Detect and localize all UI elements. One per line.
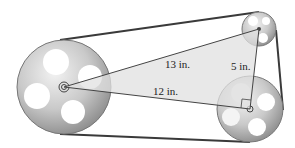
pulley-hole: [257, 93, 275, 111]
pulley-hole: [258, 33, 268, 43]
long-leg-label: 12 in.: [153, 85, 178, 97]
pulley-hole: [43, 49, 69, 75]
pulley-hole: [248, 118, 266, 136]
pulley-hole: [61, 100, 85, 124]
pulley-hole: [24, 83, 50, 109]
pulley-hole: [248, 16, 258, 26]
pulley-hole: [222, 108, 240, 126]
short-leg-label: 5 in.: [231, 60, 251, 72]
hypotenuse-label: 13 in.: [165, 58, 190, 70]
belt-bottom-segment: [60, 134, 250, 142]
pulley-hole: [262, 17, 270, 25]
belt-top-segment: [60, 12, 259, 40]
pulley-diagram: 13 in. 12 in. 5 in.: [0, 0, 295, 148]
